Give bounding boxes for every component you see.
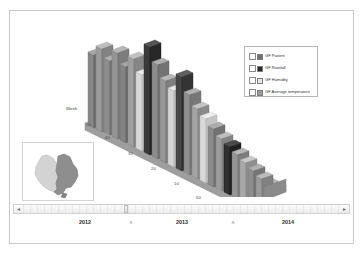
screenshot-root: Week 50 40 30 20 10 50 GF Patient GF Rai… [0,0,363,255]
legend[interactable]: GF Patient GF Rainfall GF Humidity GF Av… [244,46,318,97]
axis-tick-week-4: 10 [174,181,179,186]
axis-tick-week-3: 20 [151,166,156,171]
year-tick-caret-icon: ʌ [130,219,133,225]
scroll-right-arrow-icon[interactable]: ► [340,205,349,213]
time-slider[interactable]: ◄ ► 2012 ʌ 2013 ʌ 2014 [10,201,353,243]
year-axis: 2012 ʌ 2013 ʌ 2014 [10,219,353,233]
time-scrollbar[interactable]: ◄ ► [13,204,350,214]
legend-swatch [257,78,263,84]
legend-item-rainfall[interactable]: GF Rainfall [249,63,314,74]
axis-tick-week-5: 50 [196,195,201,200]
legend-label: GF Humidity [265,78,288,82]
year-label-2012[interactable]: 2012 [79,219,91,225]
scroll-track-hatch [23,205,340,213]
checkbox-icon[interactable] [249,65,256,72]
legend-swatch [257,54,263,60]
checkbox-icon[interactable] [249,53,256,60]
map-region-west [35,155,58,192]
region-map-icon [23,143,93,200]
year-label-2013[interactable]: 2013 [176,219,188,225]
checkbox-icon[interactable] [249,89,256,96]
legend-item-average-temperature[interactable]: GF Average temperature [249,87,314,98]
legend-swatch [257,90,263,96]
year-tick-caret-icon: ʌ [232,219,235,225]
legend-label: GF Rainfall [265,66,285,70]
checkbox-icon[interactable] [249,77,256,84]
legend-label: GF Average temperature [265,90,310,94]
legend-item-patient[interactable]: GF Patient [249,51,314,62]
map-inset[interactable] [22,142,94,201]
axis-tick-week-0: 50 [86,122,91,127]
chart-panel: Week 50 40 30 20 10 50 GF Patient GF Rai… [9,10,354,244]
scroll-track[interactable] [23,205,340,213]
scroll-left-arrow-icon[interactable]: ◄ [14,205,23,213]
map-region-east [54,154,78,195]
scroll-thumb[interactable] [124,205,128,213]
axis-title-week: Week [66,106,77,111]
legend-item-humidity[interactable]: GF Humidity [249,75,314,86]
axis-tick-week-2: 30 [128,151,133,156]
legend-swatch [257,66,263,72]
plot-area[interactable]: Week 50 40 30 20 10 50 GF Patient GF Rai… [10,11,353,201]
legend-label: GF Patient [265,54,285,58]
axis-tick-week-1: 40 [105,135,110,140]
year-label-2014[interactable]: 2014 [282,219,294,225]
